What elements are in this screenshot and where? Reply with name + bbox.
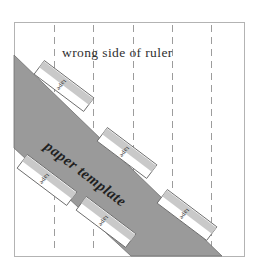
diagram-canvas: wrong side of ruler paper template tapet… xyxy=(0,0,259,269)
ruler-tape-diagram-svg xyxy=(0,0,259,269)
